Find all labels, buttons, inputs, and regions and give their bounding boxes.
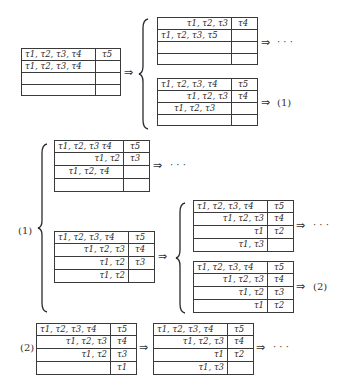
table-row: τ1, τ3 (154, 361, 253, 374)
implies-arrow: ⇒ (256, 342, 265, 354)
table-row: τ1, τ2, τ3, τ4τ5 (55, 232, 154, 243)
table-row: τ1, τ2τ3 (55, 256, 154, 269)
left-cell: τ1, τ2, τ3, τ4 (22, 61, 96, 72)
right-cell (232, 42, 238, 53)
implies-arrow: ⇒ (139, 342, 148, 354)
section-label: (1) (18, 225, 32, 237)
implies-arrow: ⇒ (158, 251, 167, 263)
left-cell: τ1, τ2, τ3 (37, 336, 111, 348)
right-cell: τ3 (129, 257, 145, 269)
table-row: τ1, τ2τ3 (37, 348, 136, 361)
left-cell: τ1, τ2 (194, 287, 268, 299)
left-cell: τ1, τ2, τ3, τ4 (158, 79, 232, 90)
table-row: τ1, τ2, τ3τ4 (55, 243, 154, 256)
table-row (22, 84, 120, 96)
table-row (55, 178, 149, 191)
right-cell (228, 362, 234, 374)
table-row: τ1, τ2, τ3τ4 (158, 18, 257, 29)
right-cell: τ5 (268, 201, 284, 212)
table-row: τ1, τ2, τ3τ4 (37, 335, 136, 348)
left-cell: τ1, τ2, τ3 τ4 (55, 141, 124, 152)
section-label: (2) (20, 342, 34, 354)
left-cell: τ1, τ2, τ3 (194, 274, 268, 286)
table-row (158, 53, 257, 65)
left-cell: τ1, τ2, τ3, τ5 (158, 30, 232, 41)
right-cell (96, 85, 102, 96)
right-cell: τ4 (268, 274, 284, 286)
table-row: τ1, τ3 (194, 238, 293, 251)
right-cell (268, 239, 274, 251)
table-row: τ1, τ2, τ3, τ4τ5 (194, 262, 293, 273)
left-cell (22, 73, 96, 84)
left-cell: τ1, τ2 (55, 270, 129, 282)
left-cell: τ1, τ2, τ3 (158, 91, 232, 102)
right-cell: τ5 (268, 262, 284, 273)
right-cell: τ4 (232, 18, 248, 29)
left-cell: τ1 (194, 300, 268, 312)
right-cell (232, 54, 238, 65)
right-cell: τ5 (124, 141, 140, 152)
table-row: τ1, τ2, τ4 (55, 165, 149, 178)
left-cell: τ1, τ2 (55, 153, 124, 165)
right-cell: τ3 (111, 349, 127, 361)
implies-arrow: ⇒ (261, 97, 270, 109)
table-row: τ1, τ2, τ3, τ4 (22, 60, 120, 72)
table-row: τ1, τ2, τ3τ4 (194, 212, 293, 225)
table-row: τ1 (37, 361, 136, 374)
table-row (158, 114, 257, 126)
right-cell (232, 30, 238, 41)
section1-branch-a-table: τ1, τ2, τ3 τ4τ5 τ1, τ2τ3 τ1, τ2, τ4 (54, 140, 150, 192)
left-cell (22, 85, 96, 96)
left-cell: τ1, τ2, τ3 (158, 18, 232, 29)
right-cell: τ4 (111, 336, 127, 348)
right-cell (124, 179, 130, 191)
section1-branch-b-table: τ1, τ2, τ3, τ4τ5 τ1, τ2, τ3τ4 τ1, τ2τ3 τ… (54, 231, 155, 283)
implies-arrow: ⇒ (261, 37, 270, 49)
table-row: τ1, τ2 (55, 269, 154, 282)
left-cell: τ1, τ2, τ4 (55, 166, 124, 178)
section1-sub-b-table: τ1, τ2, τ3, τ4τ5 τ1, τ2, τ3τ4 τ1, τ2τ3 τ… (193, 261, 294, 313)
left-cell (37, 362, 111, 374)
table-row: τ1, τ2, τ3 τ4τ5 (55, 141, 149, 152)
right-cell: τ1 (111, 362, 127, 374)
table-row: τ1τ2 (194, 225, 293, 238)
right-cell: τ4 (232, 91, 248, 102)
table-row: τ1τ2 (194, 299, 293, 312)
table-row: τ1, τ2τ3 (55, 152, 149, 165)
implies-arrow: ⇒ (124, 67, 133, 79)
top-branch-a-table: τ1, τ2, τ3τ4 τ1, τ2, τ3, τ5 (157, 17, 258, 65)
implies-arrow: ⇒ (153, 160, 162, 172)
table-row: τ1, τ2, τ3, τ4τ5 (158, 79, 257, 90)
table-row: τ1, τ2, τ3τ4 (154, 335, 253, 348)
right-cell (96, 73, 102, 84)
right-cell: τ3 (268, 287, 284, 299)
right-cell: τ4 (228, 336, 244, 348)
right-cell (129, 270, 135, 282)
left-cell: τ1 (154, 349, 228, 361)
table-row: τ1, τ2, τ3, τ5 (158, 29, 257, 41)
left-cell: τ1, τ2, τ3, τ4 (194, 262, 268, 273)
left-cell: τ1, τ2, τ3, τ4 (154, 324, 228, 335)
right-cell: τ3 (124, 153, 140, 165)
left-brace-icon (37, 143, 49, 313)
left-brace-icon (175, 202, 187, 314)
left-cell: τ1, τ2 (37, 349, 111, 361)
left-cell: τ1, τ3 (154, 362, 228, 374)
implies-arrow: ⇒ (296, 281, 305, 293)
table-row (22, 72, 120, 84)
left-brace-icon (138, 18, 150, 130)
right-cell: τ2 (268, 300, 284, 312)
section1-sub-a-table: τ1, τ2, τ3, τ4τ5 τ1, τ2, τ3τ4 τ1τ2 τ1, τ… (193, 200, 294, 252)
reference-label: (2) (313, 281, 327, 293)
right-cell (232, 103, 238, 114)
table-row: τ1, τ2, τ3, τ4τ5 (37, 324, 136, 335)
right-cell (96, 61, 102, 72)
section2-table-b: τ1, τ2, τ3, τ4τ5 τ1, τ2, τ3τ4 τ1τ2 τ1, τ… (153, 323, 254, 375)
right-cell: τ4 (129, 244, 145, 256)
table-row: τ1, τ2, τ3, τ4τ5 (154, 324, 253, 335)
right-cell: τ5 (232, 79, 248, 90)
right-cell: τ5 (111, 324, 127, 335)
table-row: τ1, τ2, τ3 (158, 102, 257, 114)
table-row: τ1, τ2, τ3, τ4τ5 (194, 201, 293, 212)
implies-arrow: ⇒ (296, 220, 305, 232)
